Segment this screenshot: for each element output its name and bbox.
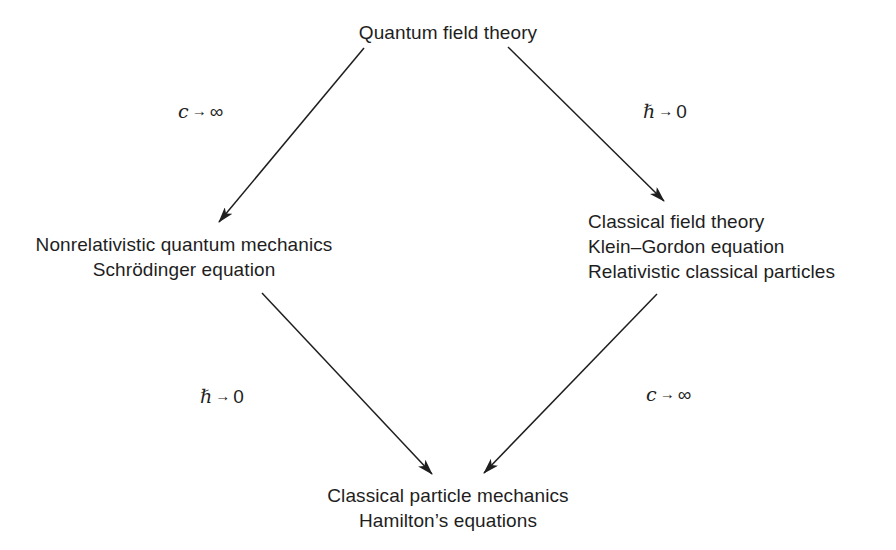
label-variable: c [178,100,189,122]
node-quantum-field-theory: Quantum field theory [310,20,586,45]
node-line: Nonrelativistic quantum mechanics [4,232,364,257]
label-limit: ∞ [678,384,692,405]
label-variable: ℏ [200,385,212,407]
node-line: Classical field theory [588,209,835,234]
arrow-symbol: → [658,102,673,119]
arrow-right-to-bottom [484,294,657,473]
arrow-symbol: → [215,387,230,404]
label-limit: 0 [233,386,244,407]
node-line: Classical particle mechanics [300,483,596,508]
label-variable: c [646,383,657,405]
arrow-left-to-bottom [262,293,432,474]
arrow-top-to-right [508,47,664,201]
label-limit: ∞ [210,101,224,122]
edge-label-top-left: c→∞ [178,100,223,123]
node-line: Schrödinger equation [4,257,364,282]
node-line: Quantum field theory [310,20,586,45]
arrow-top-to-left [219,48,364,222]
arrow-symbol: → [660,385,675,402]
edge-label-top-right: ℏ→0 [643,100,687,123]
node-nonrelativistic-qm: Nonrelativistic quantum mechanics Schröd… [4,232,364,282]
arrow-symbol: → [192,102,207,119]
node-line: Klein–Gordon equation [588,234,835,259]
label-limit: 0 [676,101,687,122]
node-classical-particle-mechanics: Classical particle mechanics Hamilton’s … [300,483,596,533]
label-variable: ℏ [643,100,655,122]
node-classical-field-theory: Classical field theory Klein–Gordon equa… [588,209,835,284]
node-line: Relativistic classical particles [588,259,835,284]
edge-label-left-bottom: ℏ→0 [200,385,244,408]
node-line: Hamilton’s equations [300,508,596,533]
edge-label-right-bottom: c→∞ [646,383,691,406]
